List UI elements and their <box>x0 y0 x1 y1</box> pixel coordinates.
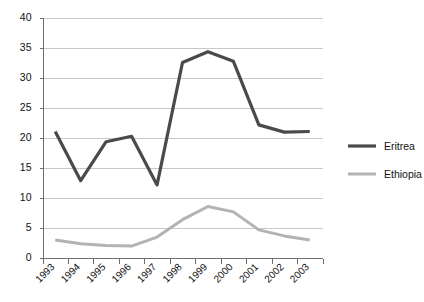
y-tick-label: 35 <box>20 41 32 53</box>
y-tick-label: 25 <box>20 101 32 113</box>
chart-canvas: 0510152025303540 19931994199519961997199… <box>0 0 424 302</box>
y-tick-label: 10 <box>20 191 32 203</box>
line-chart: 0510152025303540 19931994199519961997199… <box>0 0 424 302</box>
y-tick-label: 40 <box>20 11 32 23</box>
legend-label-ethiopia: Ethiopia <box>384 168 422 180</box>
y-tick-label: 5 <box>26 221 32 233</box>
y-tick-label: 30 <box>20 71 32 83</box>
y-tick-label: 15 <box>20 161 32 173</box>
legend-label-eritrea: Eritrea <box>384 140 415 152</box>
y-tick-label: 20 <box>20 131 32 143</box>
y-tick-label: 0 <box>26 251 32 263</box>
